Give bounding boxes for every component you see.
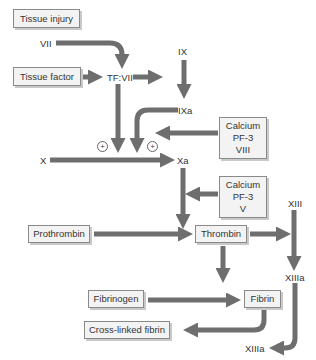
- box-tissue-injury: Tissue injury: [13, 9, 80, 28]
- arrow-ixa-to-x: [137, 110, 178, 146]
- label-xiiia-mid: XIIIa: [285, 272, 305, 283]
- calcium-label: Calcium: [226, 179, 260, 191]
- factor-v-label: V: [240, 203, 246, 215]
- tissue-factor-label: Tissue factor: [20, 71, 74, 83]
- factor-viii-label: VIII: [236, 144, 250, 156]
- box-cross-linked-fibrin: Cross-linked fibrin: [84, 321, 170, 339]
- pf3-label: PF-3: [233, 191, 254, 203]
- box-tissue-factor: Tissue factor: [13, 67, 81, 86]
- box-fibrinogen: Fibrinogen: [88, 290, 144, 308]
- box-cofactors-viii: Calcium PF-3 VIII: [219, 117, 267, 159]
- thrombin-label: Thrombin: [201, 228, 241, 240]
- pf3-label: PF-3: [233, 132, 254, 144]
- label-ix: IX: [178, 46, 187, 57]
- arrow-fibrin-to-crosslinked: [190, 310, 264, 330]
- plus-left-icon: +: [97, 141, 108, 152]
- label-ixa: IXa: [178, 105, 192, 116]
- box-cofactors-v: Calcium PF-3 V: [219, 176, 267, 218]
- label-x: X: [40, 155, 46, 166]
- box-prothrombin: Prothrombin: [28, 225, 90, 243]
- label-tf-vii: TF:VII: [107, 72, 133, 83]
- box-fibrin: Fibrin: [244, 290, 281, 308]
- arrow-vii-to-tfvii: [56, 43, 122, 62]
- tissue-injury-label: Tissue injury: [20, 13, 73, 25]
- coagulation-cascade-diagram: Tissue injury Tissue factor Calcium PF-3…: [0, 0, 316, 360]
- fibrinogen-label: Fibrinogen: [94, 293, 139, 305]
- box-thrombin: Thrombin: [195, 225, 247, 243]
- plus-right-icon: +: [147, 141, 158, 152]
- prothrombin-label: Prothrombin: [33, 228, 85, 240]
- label-vii: VII: [40, 38, 52, 49]
- label-xiiia-bottom: XIIIa: [245, 343, 265, 354]
- label-xa: Xa: [177, 155, 189, 166]
- calcium-label: Calcium: [226, 120, 260, 132]
- fibrin-label: Fibrin: [251, 293, 275, 305]
- cross-linked-fibrin-label: Cross-linked fibrin: [89, 324, 165, 336]
- label-xiii: XIII: [288, 198, 302, 209]
